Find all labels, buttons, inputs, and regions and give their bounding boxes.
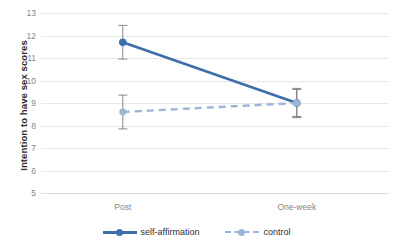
legend-key-icon	[225, 227, 259, 237]
series-marker-control	[293, 100, 300, 107]
legend-item[interactable]: control	[225, 227, 290, 237]
legend-key-icon	[103, 227, 137, 237]
line-chart: Intention to have sex scores 13121110987…	[0, 0, 393, 248]
series-line-control	[123, 103, 297, 112]
legend-item[interactable]: self-affirmation	[103, 227, 200, 237]
legend-label: control	[263, 227, 290, 237]
series-layer	[0, 0, 393, 248]
legend-label: self-affirmation	[141, 227, 200, 237]
chart-legend: self-affirmationcontrol	[0, 227, 393, 237]
series-line-self-affirmation	[123, 42, 297, 103]
series-marker-self-affirmation	[119, 38, 127, 46]
series-marker-control	[119, 109, 126, 116]
